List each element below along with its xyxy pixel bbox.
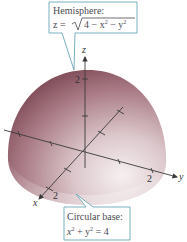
y-axis-label: y (178, 171, 184, 182)
x-axis-label: x (32, 197, 38, 208)
hemisphere-equation: z = (53, 19, 66, 30)
z-tick-label: 2 (75, 74, 80, 85)
hemisphere-callout: Hemisphere: z = 4 − x2 − y2 (49, 2, 137, 70)
hemisphere-diagram: z 2 y 2 x 2 Hemisphere: z = 4 − x2 − y2 … (0, 0, 187, 242)
z-axis-label: z (81, 44, 86, 55)
x-tick-label: 2 (53, 190, 58, 201)
hemisphere-title: Hemisphere: (53, 5, 104, 16)
y-tick-label: 2 (147, 173, 152, 184)
circular-base-title: Circular base: (67, 211, 123, 222)
